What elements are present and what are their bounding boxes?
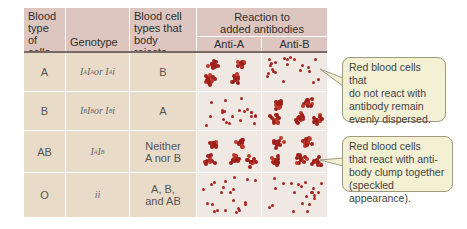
callout-line: antibody remain [349,100,439,113]
callout-line: Red blood cells that [349,61,439,87]
callout-line: Red blood cells [349,140,446,153]
callout-line: body clump together [349,166,446,179]
callout-line: evenly dispersed. [349,113,439,126]
callout-dispersed: Red blood cells that do not react with a… [342,57,446,122]
callout-line: that react with anti- [349,153,446,166]
callout-line: do not react with [349,87,439,100]
callout-clumped: Red blood cells that react with anti- bo… [342,136,453,192]
callout-line: (speckled appearance). [349,179,446,205]
